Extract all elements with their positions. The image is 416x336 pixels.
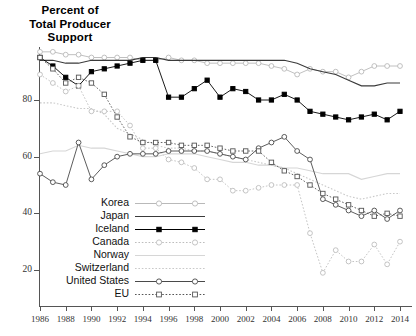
- data-point: [256, 98, 260, 102]
- data-point: [50, 180, 55, 185]
- data-point: [76, 52, 81, 57]
- data-point: [115, 109, 120, 114]
- data-point: [282, 66, 287, 71]
- data-point: [282, 92, 286, 96]
- data-point: [243, 188, 248, 193]
- data-point: [102, 109, 107, 114]
- data-point: [63, 183, 68, 188]
- data-point: [230, 154, 235, 159]
- legend-item-korea[interactable]: Korea: [62, 196, 237, 209]
- data-point: [205, 149, 210, 154]
- data-point: [192, 87, 196, 91]
- data-point: [359, 259, 364, 264]
- data-point: [179, 143, 183, 147]
- data-point: [38, 72, 43, 77]
- data-point: [205, 61, 210, 66]
- data-point: [333, 202, 338, 207]
- data-point: [321, 191, 325, 195]
- data-point: [179, 160, 184, 165]
- data-point: [398, 239, 403, 244]
- data-point: [166, 149, 171, 154]
- data-point: [218, 61, 223, 66]
- data-point: [282, 183, 287, 188]
- data-point: [128, 135, 132, 139]
- data-point: [398, 109, 402, 113]
- data-point: [385, 262, 390, 267]
- legend-item-swatch: [133, 209, 237, 222]
- data-point: [192, 149, 197, 154]
- legend-item-label: Korea: [101, 196, 129, 209]
- data-point: [50, 49, 55, 54]
- legend-item-label: EU: [114, 287, 129, 300]
- legend-item-japan[interactable]: Japan: [62, 209, 237, 222]
- data-point: [128, 61, 132, 65]
- data-point: [64, 81, 68, 85]
- data-point: [359, 69, 364, 74]
- legend-item-united-states[interactable]: United States: [62, 274, 237, 287]
- legend-item-eu[interactable]: EU: [62, 287, 237, 300]
- legend-item-iceland[interactable]: Iceland: [62, 222, 237, 235]
- data-point: [334, 197, 338, 201]
- data-point: [166, 157, 171, 162]
- data-point: [154, 140, 158, 144]
- data-point: [166, 55, 171, 60]
- data-point: [128, 55, 133, 60]
- legend-item-label: Japan: [100, 209, 129, 222]
- data-point: [256, 61, 261, 66]
- data-point: [140, 151, 145, 156]
- data-point: [269, 64, 274, 69]
- data-point: [64, 75, 68, 79]
- data-point: [192, 143, 196, 147]
- legend-item-canada[interactable]: Canada: [62, 235, 237, 248]
- legend-item-switzerland[interactable]: Switzerland: [62, 261, 237, 274]
- legend-item-swatch: [133, 274, 237, 287]
- data-point: [308, 183, 312, 187]
- data-point: [243, 157, 248, 162]
- data-point: [63, 52, 68, 57]
- data-point: [398, 64, 403, 69]
- data-point: [76, 83, 81, 88]
- data-point: [205, 78, 209, 82]
- legend-item-label: Canada: [92, 235, 129, 248]
- legend-item-swatch: [133, 196, 237, 209]
- data-point: [230, 188, 235, 193]
- data-point: [205, 177, 210, 182]
- data-point: [230, 61, 235, 66]
- legend-item-swatch: [133, 261, 237, 274]
- data-point: [141, 58, 145, 62]
- data-point: [385, 64, 390, 69]
- data-point: [398, 214, 402, 218]
- data-point: [359, 115, 363, 119]
- data-point: [166, 95, 170, 99]
- data-point: [269, 140, 274, 145]
- data-point: [269, 183, 274, 188]
- data-point: [218, 177, 223, 182]
- legend-item-swatch: [133, 287, 237, 300]
- legend-item-swatch: [133, 235, 237, 248]
- data-point: [140, 146, 145, 151]
- data-point: [38, 55, 42, 59]
- data-point: [115, 154, 120, 159]
- data-point: [320, 270, 325, 275]
- data-point: [372, 208, 377, 213]
- data-point: [256, 149, 260, 153]
- data-point: [38, 171, 43, 176]
- data-point: [269, 98, 273, 102]
- data-point: [89, 177, 94, 182]
- data-point: [295, 149, 300, 154]
- legend-item-label: Switzerland: [75, 261, 129, 274]
- data-point: [282, 134, 287, 139]
- data-point: [295, 183, 300, 188]
- legend-item-norway[interactable]: Norway: [62, 248, 237, 261]
- data-point: [179, 95, 183, 99]
- data-point: [308, 109, 312, 113]
- data-point: [334, 115, 338, 119]
- data-point: [398, 208, 403, 213]
- data-point: [89, 55, 94, 60]
- data-point: [205, 143, 209, 147]
- data-point: [308, 157, 313, 162]
- data-point: [76, 140, 81, 145]
- data-point: [38, 49, 43, 54]
- data-point: [115, 115, 119, 119]
- data-point: [50, 81, 55, 86]
